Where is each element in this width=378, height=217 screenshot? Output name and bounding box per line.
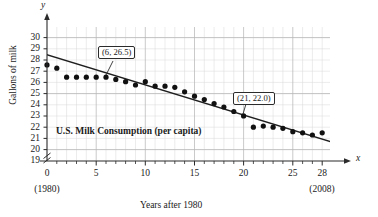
y-tick-label: 23 xyxy=(24,110,40,120)
x-tick-label: 10 xyxy=(133,168,157,178)
data-point xyxy=(123,79,128,84)
x-axis-caption: Years after 1980 xyxy=(140,200,202,210)
callout-point-2: (21, 22.0) xyxy=(233,92,275,105)
x-axis-start-year-note: (1980) xyxy=(24,184,70,194)
plot-background xyxy=(47,27,330,161)
data-point xyxy=(192,94,197,99)
data-point xyxy=(103,75,108,80)
y-axis-arrow xyxy=(44,13,50,20)
data-point xyxy=(310,132,315,137)
data-point xyxy=(172,85,177,90)
data-point xyxy=(251,125,256,130)
data-point xyxy=(113,77,118,82)
data-point xyxy=(153,84,158,89)
x-tick-label: 25 xyxy=(281,168,305,178)
y-tick-label: 28 xyxy=(24,54,40,64)
x-tick-label: 5 xyxy=(84,168,108,178)
chart-title: U.S. Milk Consumption (per capita) xyxy=(56,126,202,136)
data-point xyxy=(64,75,69,80)
y-tick-label: 29 xyxy=(24,43,40,53)
data-point xyxy=(182,89,187,94)
data-point xyxy=(231,109,236,114)
data-point xyxy=(84,75,89,80)
x-tick-label: 28 xyxy=(310,168,334,178)
data-point xyxy=(241,113,246,118)
x-axis-arrow xyxy=(344,158,351,164)
y-axis-symbol: y xyxy=(41,0,45,10)
data-point xyxy=(271,125,276,130)
y-tick-label: 26 xyxy=(24,77,40,87)
y-tick-label: 21 xyxy=(24,133,40,143)
data-point xyxy=(320,130,325,135)
x-axis-end-year-note: (2008) xyxy=(299,184,345,194)
data-point xyxy=(290,129,295,134)
data-point xyxy=(162,84,167,89)
y-tick-label: 27 xyxy=(24,66,40,76)
x-axis-ticks-major xyxy=(96,161,322,166)
x-tick-label: 20 xyxy=(232,168,256,178)
y-tick-label: 19 xyxy=(24,155,40,165)
y-tick-label: 25 xyxy=(24,88,40,98)
data-point xyxy=(133,82,138,87)
data-point xyxy=(261,124,266,129)
data-point xyxy=(143,79,148,84)
x-tick-label: 15 xyxy=(183,168,207,178)
data-point xyxy=(94,75,99,80)
data-point xyxy=(74,75,79,80)
x-axis-symbol: x xyxy=(356,153,360,163)
y-tick-label: 24 xyxy=(24,99,40,109)
data-point xyxy=(280,126,285,131)
data-point xyxy=(212,101,217,106)
data-point xyxy=(221,104,226,109)
y-tick-label: 30 xyxy=(24,32,40,42)
y-tick-label: 22 xyxy=(24,122,40,132)
y-tick-label: 20 xyxy=(24,144,40,154)
callout-point-1: (6, 26.5) xyxy=(98,46,135,59)
data-point xyxy=(202,97,207,102)
x-tick-label: 0 xyxy=(35,168,59,178)
y-axis-title: Gallons of milk xyxy=(8,10,18,140)
data-point xyxy=(300,130,305,135)
data-point xyxy=(54,66,59,71)
